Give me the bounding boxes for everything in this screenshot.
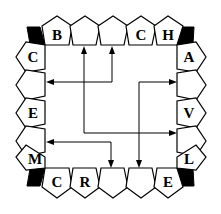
arrowhead-up-icon [81, 46, 87, 54]
bottom-pentagon-2: R [70, 168, 100, 198]
top-pentagon-3 [98, 16, 128, 45]
right-pentagon-3-label: V [184, 105, 195, 121]
right-pentagon-2 [177, 70, 206, 100]
bottom-pentagon-1-label: C [52, 174, 63, 190]
top-pentagon-1-label: B [52, 27, 62, 43]
bottom-pentagon-2-label: R [80, 174, 91, 190]
left-column: C E M [16, 42, 45, 170]
connector-arrows [46, 46, 177, 168]
right-pentagon-1: A [177, 42, 206, 72]
arrow-right2-to-bottom4 [139, 82, 170, 161]
right-pentagon-1-label: A [184, 49, 195, 65]
right-column: A V L [177, 42, 206, 170]
bottom-pentagon-4 [126, 168, 156, 198]
top-pentagon-1: B [42, 16, 72, 45]
top-pentagon-5: H [154, 16, 183, 45]
left-pentagon-2 [16, 70, 45, 100]
arrowhead-down-icon [136, 160, 142, 168]
ring-puzzle-diagram: B C H C R [0, 0, 221, 214]
bottom-pentagon-3 [98, 168, 128, 198]
right-pentagon-3: V [177, 98, 206, 128]
top-pentagon-4: C [126, 16, 156, 45]
top-pentagon-5-label: H [162, 27, 174, 43]
arrowhead-left-icon [46, 79, 54, 85]
bottom-pentagon-5: E [154, 168, 183, 198]
arrow-left4-to-bottom3 [52, 142, 111, 161]
bottom-pentagon-1: C [42, 168, 72, 198]
left-pentagon-3: E [16, 98, 45, 128]
top-pentagon-2 [70, 16, 100, 45]
left-pentagon-1-label: C [28, 49, 39, 65]
arrowhead-up-icon [109, 46, 115, 54]
arrowhead-right-icon [169, 130, 177, 136]
top-row: B C H [42, 16, 183, 45]
arrowhead-right-icon [169, 79, 177, 85]
arrow-top2-to-right4 [84, 52, 170, 133]
arrow-top3-to-left2 [52, 52, 112, 82]
top-pentagon-4-label: C [136, 27, 147, 43]
left-pentagon-3-label: E [28, 105, 38, 121]
left-pentagon-1: C [16, 42, 45, 72]
arrowhead-down-icon [108, 160, 114, 168]
right-pentagon-5-label: L [184, 151, 194, 167]
bottom-row: C R E [42, 168, 183, 198]
arrowhead-left-icon [46, 139, 54, 145]
bottom-pentagon-5-label: E [163, 174, 173, 190]
left-pentagon-5-label: M [28, 151, 42, 167]
